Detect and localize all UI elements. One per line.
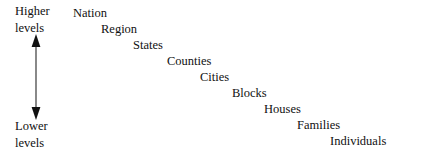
level-label: Nation	[73, 6, 107, 20]
level-label: Blocks	[232, 86, 267, 100]
level-label: Houses	[264, 102, 301, 116]
hierarchy-level-list: Nation Region States Counties Cities Blo…	[0, 0, 423, 157]
level-label: Cities	[200, 70, 229, 84]
hierarchy-levels-diagram: Higher levels Lower levels Nation Region…	[0, 0, 423, 157]
level-label: Families	[297, 118, 340, 132]
level-label: Counties	[167, 54, 211, 68]
level-label: States	[133, 38, 163, 52]
level-label: Region	[101, 22, 137, 36]
level-label: Individuals	[330, 134, 386, 148]
